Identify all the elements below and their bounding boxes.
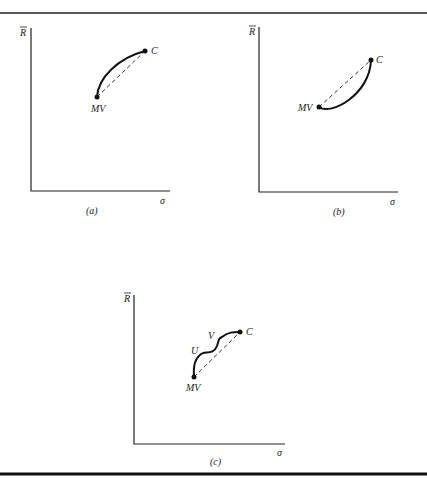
panel-a: R σ (a) MV C: [19, 27, 170, 217]
axes: [134, 295, 285, 444]
panel-b: R σ (b) MV C: [248, 26, 398, 218]
caption: (c): [210, 456, 222, 468]
caption: (b): [333, 206, 345, 218]
mv-point: [192, 375, 197, 380]
c-point: [238, 330, 243, 335]
mv-point: [317, 105, 322, 110]
v-label: V: [208, 330, 216, 341]
mv-label: MV: [90, 103, 107, 114]
u-label: U: [191, 345, 199, 356]
y-axis-label: R: [248, 26, 255, 37]
y-axis-label: R: [19, 27, 26, 38]
c-label: C: [246, 326, 253, 337]
c-label: C: [376, 54, 383, 65]
c-point: [369, 58, 374, 63]
x-axis-label: σ: [160, 195, 166, 206]
figure: R σ (a) MV C R σ (b) MV C R σ (c) MV C: [0, 0, 427, 480]
x-axis-label: σ: [277, 447, 283, 458]
panel-c: R σ (c) MV C U V: [123, 293, 285, 468]
dashed-line: [97, 51, 145, 97]
caption: (a): [86, 205, 98, 217]
mv-label: MV: [297, 102, 314, 113]
y-axis-label: R: [123, 293, 130, 304]
mv-point: [95, 95, 100, 100]
x-axis-label: σ: [390, 196, 396, 207]
c-point: [143, 49, 148, 54]
mv-label: MV: [185, 382, 202, 393]
c-label: C: [151, 45, 158, 56]
